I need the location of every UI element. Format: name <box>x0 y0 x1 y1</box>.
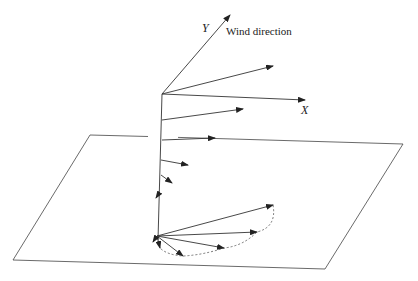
y-axis-arrow <box>162 15 230 94</box>
x-axis-arrow <box>162 94 305 100</box>
hodograph-arrow-4 <box>157 236 183 256</box>
depth-current-arrow-1 <box>162 109 243 120</box>
y-axis-label: Y <box>202 22 209 34</box>
depth-current-arrow-2 <box>162 138 215 140</box>
x-axis-label: X <box>301 104 308 116</box>
hodograph-arrow-1 <box>157 205 273 236</box>
hodograph-arrow-2 <box>157 232 257 236</box>
depth-current-vectors <box>156 66 273 198</box>
vertical-depth-axis <box>158 94 162 240</box>
plane-top-edge-left <box>90 135 148 137</box>
plane-left-edge <box>13 135 90 260</box>
horizontal-plane <box>13 135 403 269</box>
ekman-spiral-diagram <box>0 0 418 281</box>
depth-current-arrow-4 <box>161 175 172 183</box>
plane-bottom-edge <box>13 260 325 269</box>
hodograph <box>153 205 274 256</box>
plane-right-edge <box>325 144 403 269</box>
surface-current-arrow <box>162 66 273 94</box>
depth-current-arrow-3 <box>161 160 188 165</box>
hodograph-arrow-3 <box>157 236 224 248</box>
hodograph-arrow-6 <box>153 236 157 242</box>
wind-direction-label: Wind direction <box>226 26 292 37</box>
